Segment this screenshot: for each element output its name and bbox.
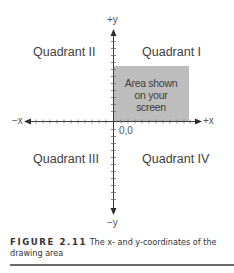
pos-x-label: +x	[203, 115, 214, 126]
arrow-left-icon	[24, 119, 31, 125]
neg-y-label: −y	[107, 217, 118, 228]
arrow-up-icon	[111, 29, 117, 36]
quadrant-iv-label: Quadrant IV	[142, 152, 209, 166]
neg-x-label: −x	[12, 115, 23, 126]
arrow-right-icon	[195, 119, 202, 125]
origin-label: 0,0	[119, 125, 133, 136]
axes	[0, 0, 234, 273]
coordinate-diagram: Area shown on your screen	[0, 0, 234, 273]
figure-number: FIGURE 2.11	[10, 236, 87, 247]
quadrant-i-label: Quadrant I	[142, 45, 201, 59]
pos-y-label: +y	[107, 14, 118, 25]
quadrant-iii-label: Quadrant III	[33, 152, 99, 166]
figure-caption: FIGURE 2.11 The x- and y-coordinates of …	[10, 236, 232, 259]
caption-divider	[10, 264, 234, 266]
quadrant-ii-label: Quadrant II	[33, 45, 96, 59]
arrow-down-icon	[111, 208, 117, 215]
